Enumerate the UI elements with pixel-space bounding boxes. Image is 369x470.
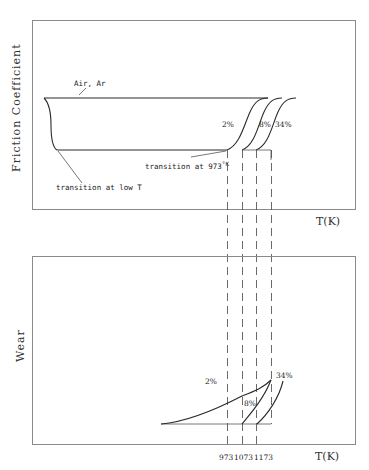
low-t-leader	[58, 151, 82, 183]
diagram-canvas: Friction Coefficient T(K) Air, Ar transi…	[0, 0, 369, 470]
friction-xlabel: T(K)	[316, 215, 340, 228]
tick-1173: 1173	[254, 453, 273, 462]
friction-label-8pct: 8%	[259, 120, 271, 129]
transition-973-leader	[191, 151, 226, 157]
wear-ylabel: Wear	[14, 329, 27, 362]
wear-label-8pct: 8%	[244, 399, 256, 408]
transition-973-label: transition at 973°K	[145, 160, 229, 171]
friction-label-2pct: 2%	[222, 120, 234, 129]
low-t-label: transition at low T	[56, 183, 142, 192]
wear-label-2pct: 2%	[205, 377, 217, 386]
tick-973: 973	[219, 453, 234, 462]
tick-1073: 1073	[234, 453, 253, 462]
air-ar-label: Air, Ar	[74, 79, 106, 88]
wear-xlabel: T(K)	[315, 450, 339, 463]
air-ar-leader	[79, 88, 86, 95]
friction-label-34pct: 34%	[275, 120, 292, 129]
low-t-transition-curve	[44, 98, 57, 150]
friction-ylabel: Friction Coefficient	[10, 43, 23, 172]
wear-label-34pct: 34%	[276, 371, 293, 380]
